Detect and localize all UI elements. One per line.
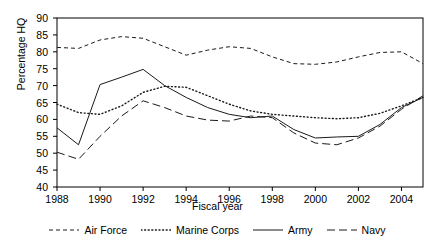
x-tick-label: 2004	[381, 194, 421, 204]
x-tick-label: 1998	[252, 194, 292, 204]
legend-item-army: Army	[253, 224, 313, 236]
legend-item-navy: Navy	[327, 224, 386, 236]
y-tick-label: 70	[20, 81, 48, 91]
y-tick-label: 40	[20, 182, 48, 192]
x-tick-label: 1990	[80, 194, 120, 204]
chart-figure: Percentage HQ Fiscal year 40455055606570…	[0, 0, 435, 246]
y-tick-label: 80	[20, 47, 48, 57]
series-line-navy	[57, 96, 423, 160]
legend-label: Air Force	[84, 224, 127, 236]
y-tick-label: 60	[20, 114, 48, 124]
legend-label: Navy	[362, 224, 386, 236]
x-tick-label: 1988	[37, 194, 77, 204]
y-tick-label: 55	[20, 131, 48, 141]
legend-swatch-icon	[253, 226, 283, 234]
y-tick-label: 65	[20, 98, 48, 108]
legend-swatch-icon	[327, 226, 357, 234]
x-tick-label: 1996	[209, 194, 249, 204]
y-tick-label: 90	[20, 13, 48, 23]
chart-legend: Air ForceMarine CorpsArmyNavy	[0, 224, 435, 236]
legend-item-marine-corps: Marine Corps	[141, 224, 239, 236]
legend-swatch-icon	[141, 226, 171, 234]
x-tick-label: 1992	[123, 194, 163, 204]
series-line-air-force	[57, 37, 423, 65]
legend-swatch-icon	[49, 226, 79, 234]
legend-label: Army	[288, 224, 313, 236]
legend-label: Marine Corps	[176, 224, 239, 236]
x-tick-label: 1994	[166, 194, 206, 204]
y-tick-label: 45	[20, 165, 48, 175]
y-tick-label: 85	[20, 30, 48, 40]
y-tick-label: 75	[20, 64, 48, 74]
x-tick-label: 2000	[295, 194, 335, 204]
x-tick-label: 2002	[338, 194, 378, 204]
legend-item-air-force: Air Force	[49, 224, 127, 236]
series-line-marine-corps	[57, 86, 423, 118]
y-tick-label: 50	[20, 148, 48, 158]
